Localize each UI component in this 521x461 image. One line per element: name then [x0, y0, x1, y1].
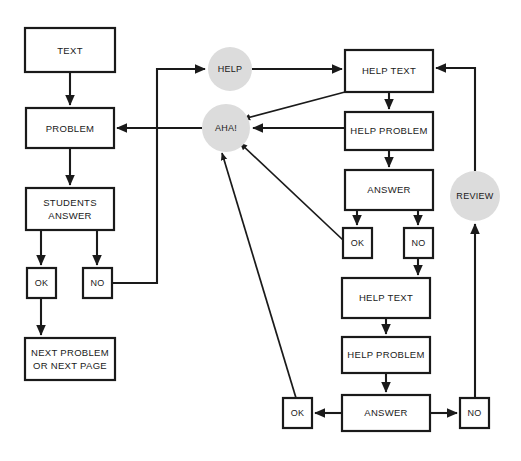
node-problem[interactable]: PROBLEM: [26, 108, 114, 148]
node-students-answer[interactable]: STUDENTS ANSWER: [26, 188, 114, 230]
node-no-mid[interactable]: NO: [404, 228, 433, 258]
node-answer-1[interactable]: ANSWER: [345, 170, 433, 210]
flowchart-canvas: TEXT PROBLEM STUDENTS ANSWER OK NO: [0, 0, 521, 461]
node-no-bottom[interactable]: NO: [460, 398, 489, 428]
node-ok-bottom[interactable]: OK: [283, 398, 312, 428]
node-aha-label: AHA!: [215, 123, 237, 133]
node-ok-bottom-label: OK: [291, 408, 305, 418]
node-ok-mid-label: OK: [351, 238, 365, 248]
node-no-left[interactable]: NO: [83, 268, 112, 298]
node-no-left-label: NO: [90, 278, 104, 288]
node-next-problem[interactable]: NEXT PROBLEM OR NEXT PAGE: [25, 338, 115, 380]
node-problem-label: PROBLEM: [46, 123, 95, 134]
node-help[interactable]: HELP: [208, 47, 252, 91]
node-help-text-1-label: HELP TEXT: [362, 65, 416, 76]
node-help-problem-2[interactable]: HELP PROBLEM: [342, 337, 430, 373]
node-help-problem-1-label: HELP PROBLEM: [350, 125, 427, 136]
node-text-label: TEXT: [57, 45, 82, 56]
node-help-label: HELP: [218, 64, 243, 74]
node-review[interactable]: REVIEW: [450, 171, 500, 221]
node-help-text-1[interactable]: HELP TEXT: [345, 50, 433, 92]
edge-help-text-to-aha: [243, 92, 345, 119]
node-help-text-2-label: HELP TEXT: [359, 292, 413, 303]
node-ok-left[interactable]: OK: [27, 268, 56, 298]
node-next-problem-label-line1: NEXT PROBLEM: [31, 347, 109, 358]
flowchart-svg: TEXT PROBLEM STUDENTS ANSWER OK NO: [0, 0, 521, 461]
node-answer-2[interactable]: ANSWER: [342, 395, 430, 431]
node-help-text-2[interactable]: HELP TEXT: [342, 278, 430, 318]
node-help-problem-1[interactable]: HELP PROBLEM: [345, 112, 433, 150]
node-no-mid-label: NO: [411, 238, 425, 248]
node-text[interactable]: TEXT: [25, 28, 115, 72]
node-students-answer-label-line1: STUDENTS: [43, 197, 97, 208]
node-answer-2-label: ANSWER: [364, 407, 408, 418]
node-aha[interactable]: AHA!: [202, 104, 250, 152]
node-next-problem-label-line2: OR NEXT PAGE: [33, 360, 107, 371]
node-review-label: REVIEW: [456, 191, 494, 201]
node-help-problem-2-label: HELP PROBLEM: [347, 349, 424, 360]
edge-no-left-to-help: [112, 69, 205, 283]
node-ok-left-label: OK: [35, 278, 49, 288]
node-no-bottom-label: NO: [467, 408, 481, 418]
node-layer: TEXT PROBLEM STUDENTS ANSWER OK NO: [25, 28, 500, 431]
edge-ok-bottom-to-aha: [222, 153, 296, 398]
node-students-answer-label-line2: ANSWER: [48, 210, 92, 221]
edge-ok-mid-to-aha: [240, 143, 343, 240]
edge-review-to-help-text: [436, 68, 475, 171]
node-ok-mid[interactable]: OK: [343, 228, 372, 258]
node-answer-1-label: ANSWER: [367, 184, 411, 195]
